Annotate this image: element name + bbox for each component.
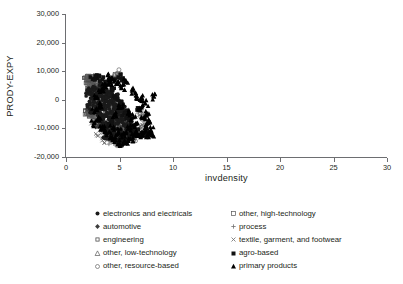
data-point — [232, 238, 236, 242]
legend-item-label: electronics and electricals — [103, 210, 192, 218]
plot-area — [66, 14, 387, 157]
legend-item[interactable]: other, resource-based — [92, 260, 222, 273]
legend-item-label: other, high-technology — [239, 210, 316, 218]
data-point — [93, 74, 97, 78]
open-circle-marker-icon — [93, 262, 102, 271]
open-circle-icon — [92, 262, 103, 271]
filled-square-icon — [228, 249, 239, 258]
x-tick-label: 10 — [169, 164, 177, 171]
data-point — [96, 238, 99, 241]
x-tick-mark — [120, 158, 121, 162]
legend-item-label: textile, garment, and footwear — [239, 236, 342, 244]
x-tick-mark — [66, 158, 67, 162]
legend-item[interactable]: electronics and electricals — [92, 207, 222, 220]
y-axis-ticks: 30,00020,00010,0000-10,000-20,000 — [0, 14, 66, 158]
x-tick-mark — [387, 158, 388, 162]
data-point — [95, 251, 100, 256]
scatter-plot-figure: PRODY-EXPY 30,00020,00010,0000-10,000-20… — [0, 0, 403, 284]
open-square-icon — [228, 209, 239, 218]
data-point — [117, 99, 121, 103]
data-point — [93, 78, 97, 82]
x-tick-label: 15 — [222, 164, 230, 171]
legend-item-label: other, low-technology — [103, 249, 177, 257]
plus-icon — [228, 222, 239, 231]
legend-item[interactable]: textile, garment, and footwear — [228, 233, 392, 246]
x-tick-label: 0 — [64, 164, 68, 171]
data-point — [110, 119, 114, 123]
cross-marker-icon — [229, 235, 238, 244]
legend-item-label: engineering — [103, 236, 144, 244]
legend: electronics and electricalsautomotiveeng… — [92, 207, 392, 279]
y-tick-label: -20,000 — [34, 153, 59, 160]
legend-item[interactable]: other, low-technology — [92, 247, 222, 260]
data-points-layer — [66, 14, 387, 157]
filled-diamond-marker-icon — [93, 222, 102, 231]
data-point — [151, 125, 156, 129]
data-point — [121, 121, 125, 125]
data-point — [107, 93, 111, 97]
legend-item-label: automotive — [103, 223, 141, 231]
data-point — [118, 73, 122, 77]
data-point — [98, 75, 102, 79]
legend-column-left: electronics and electricalsautomotiveeng… — [92, 207, 222, 273]
x-tick-label: 30 — [383, 164, 391, 171]
x-tick-label: 5 — [117, 164, 121, 171]
filled-circle-marker-icon — [93, 209, 102, 218]
x-tick-mark — [280, 158, 281, 162]
legend-item-label: process — [239, 223, 266, 231]
x-tick-label: 25 — [329, 164, 337, 171]
legend-item-label: other, resource-based — [103, 262, 179, 270]
data-point — [104, 96, 108, 100]
data-point — [231, 264, 236, 269]
small-open-square-icon — [92, 235, 103, 244]
x-tick-mark — [334, 158, 335, 162]
legend-column-right: other, high-technologyprocesstextile, ga… — [228, 207, 392, 273]
x-axis-label: invdensity — [66, 173, 387, 183]
data-point — [89, 75, 93, 79]
data-point — [96, 264, 100, 268]
data-point — [98, 79, 102, 83]
data-point — [94, 132, 98, 136]
filled-triangle-marker-icon — [229, 262, 238, 271]
cross-icon — [228, 235, 239, 244]
open-triangle-marker-icon — [93, 249, 102, 258]
x-tick-mark — [173, 158, 174, 162]
legend-item[interactable]: other, high-technology — [228, 207, 392, 220]
data-point — [96, 212, 100, 216]
data-point — [89, 88, 93, 92]
legend-item[interactable]: automotive — [92, 220, 222, 233]
data-point — [120, 113, 124, 117]
small-open-square-marker-icon — [93, 235, 102, 244]
data-point — [107, 111, 111, 115]
legend-item-label: agro-based — [239, 249, 278, 257]
plus-marker-icon — [229, 222, 238, 231]
data-point — [106, 71, 111, 75]
legend-item[interactable]: primary products — [228, 260, 392, 273]
data-point — [232, 212, 236, 216]
y-tick-label: 30,000 — [36, 10, 59, 17]
open-square-marker-icon — [229, 209, 238, 218]
filled-circle-icon — [92, 209, 103, 218]
y-tick-label: 20,000 — [36, 39, 59, 46]
data-point — [113, 96, 117, 100]
filled-triangle-icon — [228, 262, 239, 271]
data-point — [85, 89, 89, 93]
data-point — [89, 111, 93, 115]
open-triangle-icon — [92, 249, 103, 258]
data-point — [99, 132, 103, 136]
y-tick-label: 10,000 — [36, 67, 59, 74]
data-point — [95, 224, 100, 229]
legend-item[interactable]: process — [228, 220, 392, 233]
data-point — [87, 102, 91, 106]
data-point — [231, 225, 235, 229]
filled-diamond-icon — [92, 222, 103, 231]
y-tick-label: -10,000 — [34, 125, 59, 132]
data-point — [117, 68, 121, 72]
legend-item-label: primary products — [239, 262, 297, 270]
legend-item[interactable]: agro-based — [228, 247, 392, 260]
filled-square-marker-icon — [229, 249, 238, 258]
data-point — [101, 75, 105, 79]
legend-item[interactable]: engineering — [92, 233, 222, 246]
data-point — [144, 98, 149, 102]
x-tick-label: 20 — [276, 164, 284, 171]
